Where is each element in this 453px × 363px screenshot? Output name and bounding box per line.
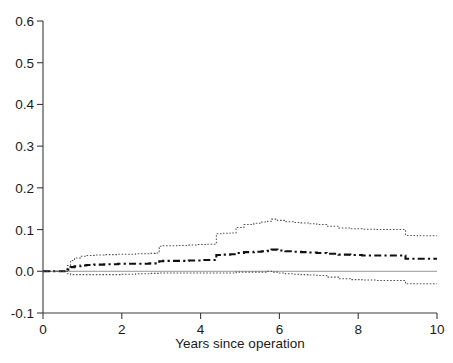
upper-confidence-limit [43, 219, 437, 271]
x-tick-label: 10 [429, 322, 444, 337]
y-tick-label: 0.5 [15, 56, 34, 71]
chart-container: -0.10.00.10.20.30.40.50.6 0246810 Years … [0, 0, 453, 363]
chart-plot-svg: -0.10.00.10.20.30.40.50.6 0246810 Years … [0, 0, 453, 363]
y-tick-label: 0.2 [15, 181, 34, 196]
y-tick-label: 0.4 [15, 97, 34, 112]
axes-group [43, 21, 437, 313]
x-tick-label: 6 [276, 322, 284, 337]
lower-confidence-limit [43, 271, 437, 284]
data-series-group [43, 219, 437, 284]
y-tick-label: 0.1 [15, 223, 34, 238]
y-tick-label: 0.3 [15, 139, 34, 154]
x-tick-label: 0 [39, 322, 47, 337]
x-tick-label: 4 [197, 322, 205, 337]
y-tick-label: 0.6 [15, 14, 34, 29]
x-tick-label: 8 [354, 322, 362, 337]
x-tick-labels-group: 0246810 [39, 322, 444, 337]
point-estimate [43, 250, 437, 272]
x-axis-title: Years since operation [175, 336, 304, 351]
y-tick-labels-group: -0.10.00.10.20.30.40.50.6 [11, 14, 35, 321]
y-tick-label: -0.1 [11, 306, 34, 321]
y-tick-label: 0.0 [15, 264, 34, 279]
x-tick-label: 2 [118, 322, 126, 337]
